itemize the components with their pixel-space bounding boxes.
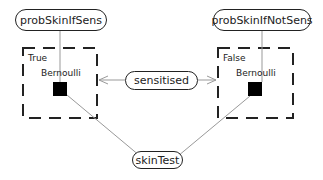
node-prob-skin-if-sens[interactable]: probSkinIfSens (15, 9, 107, 31)
factor-node-right[interactable] (248, 82, 262, 96)
factor-label-bernoulli-left: Bernoulli (41, 68, 81, 78)
gate-case-label-true: True (28, 53, 47, 63)
factor-node-left[interactable] (53, 82, 67, 96)
node-skin-test[interactable]: skinTest (132, 151, 183, 169)
gate-case-label-false: False (223, 53, 246, 63)
node-prob-skin-if-not-sens[interactable]: probSkinIfNotSens (213, 9, 311, 31)
factor-label-bernoulli-right: Bernoulli (236, 68, 276, 78)
node-sensitised[interactable]: sensitised (125, 71, 198, 90)
